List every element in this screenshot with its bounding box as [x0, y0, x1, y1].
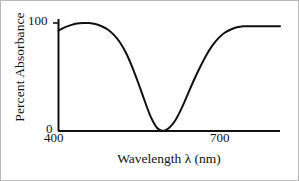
absorbance-spectrum-figure: Percent Absorbance Wavelength λ (nm) 100…	[1, 1, 298, 180]
y-axis-label: Percent Absorbance	[12, 0, 28, 142]
x-tick-label-700: 700	[210, 130, 230, 146]
y-tick-label-100: 100	[28, 13, 48, 29]
x-tick-label-400: 400	[44, 130, 64, 146]
chart-figure-root: Percent Absorbance Wavelength λ (nm) 100…	[0, 0, 299, 181]
absorbance-curve	[59, 23, 281, 131]
x-axis-label: Wavelength λ (nm)	[58, 151, 280, 167]
